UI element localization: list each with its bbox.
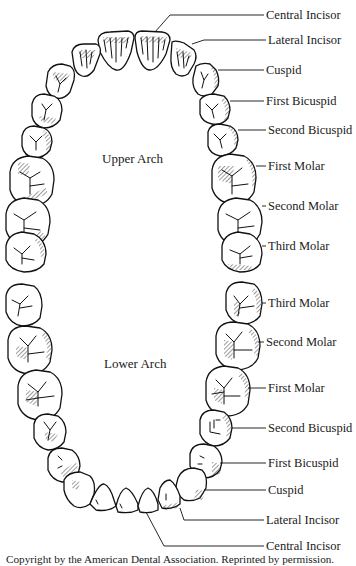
label-lower-lateral-incisor: Lateral Incisor [266, 513, 339, 527]
lower-central-incisor-right [138, 488, 158, 513]
label-lower-second-molar: Second Molar [266, 335, 336, 349]
upper-central-incisor-left [98, 31, 134, 70]
lower-arch-title: Lower Arch [104, 356, 166, 372]
upper-first-bicuspid-right [200, 94, 230, 124]
label-upper-central-incisor: Central Incisor [266, 8, 341, 22]
upper-arch-title: Upper Arch [102, 151, 163, 167]
upper-third-molar-right [222, 232, 262, 272]
lower-central-incisor-left [116, 488, 138, 513]
upper-second-bicuspid-right [208, 124, 238, 156]
upper-lateral-incisor-left [72, 44, 101, 76]
label-lower-central-incisor: Central Incisor [266, 539, 341, 553]
label-lower-second-bicuspid: Second Bicuspid [268, 421, 352, 435]
lower-second-bicuspid-right [200, 410, 232, 446]
lower-first-molar-right [206, 366, 250, 416]
upper-third-molar-left [6, 232, 46, 272]
label-lower-third-molar: Third Molar [268, 296, 329, 310]
label-upper-third-molar: Third Molar [268, 239, 329, 253]
label-upper-second-molar: Second Molar [268, 199, 338, 213]
label-lower-first-molar: First Molar [268, 381, 325, 395]
label-lower-first-bicuspid: First Bicuspid [268, 456, 339, 470]
upper-lateral-incisor-right [171, 41, 196, 76]
lower-second-molar-right [216, 322, 260, 370]
lower-second-molar-left [8, 326, 52, 374]
upper-central-incisor-right [135, 31, 170, 70]
label-upper-cuspid: Cuspid [266, 63, 301, 77]
lower-third-molar-left [6, 284, 42, 326]
label-upper-first-bicuspid: First Bicuspid [266, 94, 337, 108]
copyright-credit: Copyright by the American Dental Associa… [6, 553, 334, 565]
lower-second-bicuspid-left [34, 414, 66, 450]
lower-first-molar-left [18, 370, 62, 420]
upper-first-bicuspid-left [32, 94, 62, 128]
label-lower-cuspid: Cuspid [268, 483, 303, 497]
label-upper-lateral-incisor: Lateral Incisor [268, 33, 341, 47]
dental-arch-diagram [0, 0, 356, 566]
label-upper-first-molar: First Molar [268, 159, 325, 173]
lower-third-molar-right [226, 282, 262, 324]
upper-first-molar-right [212, 154, 256, 204]
label-upper-second-bicuspid: Second Bicuspid [268, 123, 352, 137]
upper-cuspid-left [46, 64, 75, 98]
upper-cuspid-right [193, 63, 219, 96]
upper-second-bicuspid-left [22, 126, 52, 158]
lower-cuspid-left [64, 472, 95, 508]
lower-arch-teeth [6, 282, 262, 513]
